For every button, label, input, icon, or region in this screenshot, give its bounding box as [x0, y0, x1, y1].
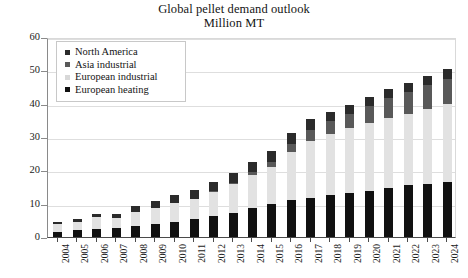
x-axis-tick-mark: [329, 238, 330, 242]
bar-segment: [365, 123, 374, 191]
bar-segment: [306, 198, 315, 237]
bar-segment: [190, 219, 199, 237]
legend-swatch-icon: [65, 50, 70, 55]
x-axis-tick-label: 2004: [61, 244, 71, 263]
bar-segment: [53, 222, 62, 224]
bar-segment: [170, 203, 179, 222]
x-axis-tick-mark: [290, 238, 291, 242]
bar-segment: [73, 230, 82, 237]
legend-swatch-icon: [65, 75, 70, 80]
bar-segment: [229, 184, 238, 212]
bar-segment: [112, 228, 121, 237]
chart-container: Global pellet demand outlook Million MT …: [0, 0, 468, 278]
x-axis-tick-mark: [135, 238, 136, 242]
bar-segment: [345, 105, 354, 114]
bar-segment: [326, 134, 335, 196]
x-axis-tick-label: 2007: [119, 244, 129, 263]
bar-segment: [248, 172, 257, 175]
x-axis-tick-mark: [368, 238, 369, 242]
legend-item-label: European industrial: [75, 71, 158, 84]
y-axis-tick-label: 30: [10, 131, 40, 142]
x-axis-tick-label: 2017: [314, 244, 324, 263]
x-axis-tick-label: 2021: [392, 244, 402, 263]
bar-segment: [229, 173, 238, 183]
legend-item: European industrial: [65, 71, 179, 84]
bar-segment: [92, 229, 101, 237]
x-axis-tick-label: 2015: [275, 244, 285, 263]
legend-item-label: North America: [75, 46, 138, 59]
x-axis-tick-mark: [213, 238, 214, 242]
bar-2020: [365, 37, 374, 237]
x-axis-tick-mark: [310, 238, 311, 242]
bar-segment: [443, 104, 452, 182]
chart-legend: North AmericaAsia industrialEuropean ind…: [56, 41, 186, 102]
legend-item-label: European heating: [75, 84, 149, 97]
y-axis-tick-label: 10: [10, 198, 40, 209]
bar-segment: [443, 69, 452, 79]
x-axis-tick-label: 2005: [80, 244, 90, 263]
legend-item: European heating: [65, 84, 179, 97]
bar-segment: [306, 119, 315, 131]
bar-segment: [345, 193, 354, 237]
x-axis-tick-mark: [154, 238, 155, 242]
x-axis-tick-mark: [193, 238, 194, 242]
bar-segment: [229, 183, 238, 184]
legend-item-label: Asia industrial: [75, 59, 137, 72]
bar-segment: [423, 76, 432, 86]
bar-2022: [404, 37, 413, 237]
bar-segment: [404, 114, 413, 186]
chart-title-block: Global pellet demand outlook Million MT: [0, 2, 468, 30]
x-axis-tick-mark: [427, 238, 428, 242]
bar-segment: [384, 89, 393, 98]
bar-segment: [170, 222, 179, 237]
bar-segment: [326, 112, 335, 121]
bar-segment: [53, 224, 62, 232]
bar-segment: [326, 121, 335, 134]
bar-2011: [190, 37, 199, 237]
bar-segment: [92, 214, 101, 218]
bar-segment: [151, 201, 160, 208]
bar-segment: [345, 114, 354, 128]
bar-segment: [209, 192, 218, 216]
bar-2013: [229, 37, 238, 237]
x-axis-tick-mark: [174, 238, 175, 242]
bar-segment: [306, 141, 315, 198]
y-axis-tick-label: 20: [10, 164, 40, 175]
bar-segment: [267, 204, 276, 237]
bar-segment: [248, 208, 257, 237]
bar-2014: [248, 37, 257, 237]
x-axis-tick-label: 2016: [294, 244, 304, 263]
bar-segment: [287, 200, 296, 237]
x-axis-tick-mark: [271, 238, 272, 242]
legend-swatch-icon: [65, 87, 70, 92]
bar-segment: [306, 130, 315, 141]
x-axis-tick-label: 2008: [139, 244, 149, 263]
bar-segment: [365, 191, 374, 237]
bar-2016: [287, 37, 296, 237]
bar-segment: [151, 208, 160, 225]
x-axis-tick-label: 2012: [217, 244, 227, 263]
bar-segment: [267, 151, 276, 162]
y-axis-tick-label: 40: [10, 98, 40, 109]
y-axis-tick-label: 50: [10, 64, 40, 75]
x-axis-tick-label: 2020: [372, 244, 382, 263]
x-axis-tick-mark: [388, 238, 389, 242]
x-axis-tick-mark: [446, 238, 447, 242]
x-axis-tick-mark: [232, 238, 233, 242]
x-axis-tick-mark: [251, 238, 252, 242]
bar-2021: [384, 37, 393, 237]
bar-segment: [365, 97, 374, 106]
x-axis-tick-mark: [76, 238, 77, 242]
bar-segment: [209, 216, 218, 237]
x-axis-tick-label: 2009: [158, 244, 168, 263]
bar-segment: [73, 222, 82, 230]
bar-segment: [384, 188, 393, 237]
bar-segment: [229, 213, 238, 237]
bar-segment: [443, 182, 452, 237]
chart-title: Global pellet demand outlook: [0, 2, 468, 16]
bar-segment: [287, 133, 296, 144]
x-axis-tick-label: 2013: [236, 244, 246, 263]
bar-segment: [131, 226, 140, 237]
bar-segment: [326, 195, 335, 237]
x-axis-tick-label: 2023: [431, 244, 441, 263]
